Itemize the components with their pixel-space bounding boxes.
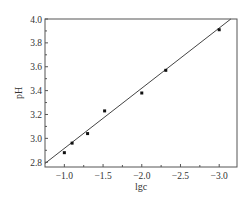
plot-area: 2.83.03.23.43.63.84.0−1.0−1.5−2.0−2.5−3.… <box>30 15 237 182</box>
chart: 2.83.03.23.43.63.84.0−1.0−1.5−2.0−2.5−3.… <box>0 0 251 207</box>
y-tick-label: 3.2 <box>30 110 42 120</box>
x-tick-label: −1.0 <box>56 171 73 181</box>
data-point <box>103 109 106 112</box>
data-point <box>86 132 89 135</box>
x-tick-label: −1.5 <box>94 171 111 181</box>
data-point <box>63 151 66 154</box>
data-point <box>71 142 74 145</box>
y-tick-label: 3.4 <box>30 86 42 96</box>
x-tick-label: −2.5 <box>172 171 189 181</box>
data-point <box>218 28 221 31</box>
x-tick-label: −3.0 <box>211 171 228 181</box>
y-tick-label: 3.6 <box>30 62 42 72</box>
x-axis-label: lgc <box>135 181 148 192</box>
y-tick-label: 3.8 <box>30 38 42 48</box>
x-tick-label: −2.0 <box>133 171 150 181</box>
y-tick-label: 2.8 <box>30 158 42 168</box>
data-point <box>140 92 143 95</box>
y-tick-label: 3.0 <box>30 134 42 144</box>
data-point <box>164 69 167 72</box>
y-axis-label: pH <box>13 87 24 99</box>
y-tick-label: 4.0 <box>30 15 42 25</box>
